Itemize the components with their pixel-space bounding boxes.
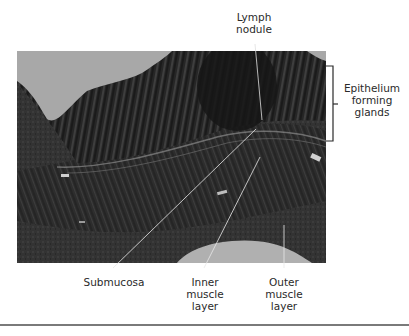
label-lymph-nodule: Lymph nodule	[228, 11, 280, 35]
label-line: Epithelium	[338, 82, 406, 94]
bottom-divider	[0, 324, 409, 326]
histology-figure: Lymph nodule Epithelium forming glands S…	[0, 0, 409, 336]
label-line: muscle	[261, 288, 307, 300]
label-line: Lymph	[228, 11, 280, 23]
label-line: muscle	[182, 288, 228, 300]
label-line: layer	[261, 300, 307, 312]
label-submucosa: Submucosa	[78, 276, 150, 288]
label-line: layer	[182, 300, 228, 312]
label-line: Outer	[261, 276, 307, 288]
label-line: forming	[338, 94, 406, 106]
label-line: Submucosa	[78, 276, 150, 288]
label-line: nodule	[228, 23, 280, 35]
submucosa-leader-line	[113, 129, 256, 268]
inner-muscle-leader-line	[204, 157, 260, 268]
label-line: Inner	[182, 276, 228, 288]
epithelium-bracket	[326, 66, 333, 141]
label-line: glands	[338, 106, 406, 118]
label-outer-muscle-layer: Outer muscle layer	[261, 276, 307, 312]
label-epithelium-forming-glands: Epithelium forming glands	[338, 82, 406, 118]
label-inner-muscle-layer: Inner muscle layer	[182, 276, 228, 312]
lymph-nodule-leader-line	[255, 44, 262, 120]
